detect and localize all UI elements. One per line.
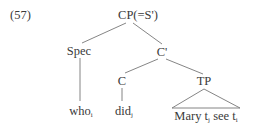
leaf-did: didj (115, 104, 133, 118)
edge-cp-spec (82, 23, 126, 43)
tp-triangle (172, 89, 240, 108)
node-cp: CP(=S') (118, 8, 158, 22)
leaf-did-word: did (115, 104, 131, 118)
leaf-who: whoi (69, 104, 92, 118)
edge-cbar-c (125, 59, 158, 73)
leaf-tp-part-1: Mary t (174, 109, 208, 123)
leaf-did-index: j (131, 111, 133, 119)
node-spec: Spec (67, 44, 91, 58)
leaf-tp-string: Mary tj see ti (174, 109, 237, 123)
example-number: (57) (10, 8, 31, 22)
leaf-who-word: who (69, 104, 91, 118)
leaf-tp-index-2: i (236, 116, 238, 124)
edge-cbar-tp (166, 59, 203, 74)
node-tp: TP (197, 74, 212, 88)
leaf-who-index: i (91, 111, 93, 119)
node-c: C (118, 74, 126, 88)
node-cbar: C' (157, 45, 168, 59)
edge-cp-cbar (133, 23, 162, 44)
leaf-tp-part-2: see t (210, 109, 236, 123)
